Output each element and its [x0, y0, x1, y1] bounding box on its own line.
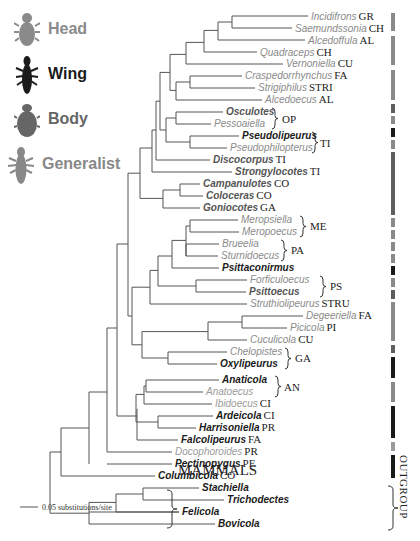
tip-forficuloecus: Forficuloecus: [250, 274, 309, 285]
head-louse-icon: [14, 10, 40, 50]
tip-oxylipeurus: Oxylipeurus: [220, 358, 278, 369]
legend-item-wing: Wing: [6, 53, 116, 98]
legend: Head Wing Body Generalist: [6, 8, 116, 188]
tip-sturnidoecus: Sturnidoecus: [221, 250, 279, 261]
legend-label: Head: [48, 20, 87, 38]
ecomorph-bars: [391, 13, 395, 478]
group-label-ti: TI: [320, 137, 330, 149]
tip-brueelia: Brueelia: [222, 238, 259, 249]
tip-strigiphilus: StrigiphilusSTRI: [258, 82, 333, 93]
tip-falcolipeurus: FalcolipeurusFA: [181, 434, 261, 445]
group-label-op: OP: [282, 113, 296, 125]
legend-label: Wing: [48, 65, 87, 83]
tip-chelopistes: Chelopistes: [230, 346, 282, 357]
outgroup-label: OUTGROUP: [398, 455, 410, 519]
tip-discocorpus: DiscocorpusTI: [213, 154, 286, 165]
legend-label: Body: [48, 110, 88, 128]
tip-docophoroides: DocophoroidesPR: [175, 446, 258, 457]
tip-pessoaiella: Pessoaiella: [214, 118, 265, 129]
tip-cuculicola: CuculicolaCU: [250, 334, 313, 345]
legend-label: Generalist: [42, 155, 120, 173]
tip-harrisoniella: HarrisoniellaPR: [199, 422, 275, 433]
body-louse-icon: [14, 100, 40, 140]
scale-bar-label: 0.05 substitutions/site: [42, 503, 112, 512]
tip-felicola: Felicola: [182, 506, 219, 517]
legend-item-head: Head: [6, 8, 116, 53]
tip-meropsiella: Meropsiella: [241, 214, 292, 225]
legend-item-body: Body: [6, 98, 116, 143]
group-label-an: AN: [284, 381, 300, 393]
group-label-mammals: MAMMALS: [178, 462, 257, 479]
group-label-ga: GA: [295, 352, 311, 364]
tip-ardeicola: ArdeicolaCI: [216, 410, 275, 421]
tip-campanulotes: CampanulotesCO: [203, 178, 289, 189]
tip-meropoecus: Meropoecus: [242, 226, 297, 237]
tip-goniocotes: GoniocotesGA: [203, 202, 276, 213]
tip-psittoecus: Psittoecus: [249, 286, 300, 297]
tip-osculotes: Osculotes: [226, 106, 274, 117]
generalist-louse-icon: [8, 145, 34, 187]
tip-ibidoecus: IbidoecusCI: [215, 398, 271, 409]
group-label-ps: PS: [330, 280, 342, 292]
tip-stachiella: Stachiella: [202, 482, 249, 493]
tip-strongylocotes: StrongylocotesTI: [235, 166, 320, 177]
tip-saemundssonia: SaemundssoniaCH: [295, 23, 384, 34]
tip-pseudophilopterus: Pseudophilopterus: [230, 142, 313, 153]
tip-coloceras: ColocerasCO: [206, 190, 272, 201]
tip-degeeriella: DegeeriellaFA: [306, 310, 372, 321]
tip-craspedorrhynchus: CraspedorrhynchusFA: [245, 70, 348, 81]
legend-item-generalist: Generalist: [6, 143, 116, 188]
tip-incidifrons: IncidifronsGR: [311, 11, 374, 22]
tip-pseudolipeurus: Pseudolipeurus: [242, 130, 317, 141]
tip-alcedoffula: AlcedoffulaAL: [308, 35, 374, 46]
group-label-pa: PA: [291, 244, 304, 256]
tip-anaticola: Anaticola: [222, 374, 267, 385]
tip-picicola: PicicolaPI: [290, 322, 336, 333]
group-label-me: ME: [310, 220, 327, 232]
tip-quadraceps: QuadracepsCH: [260, 47, 332, 58]
tip-psittaconirmus: Psittaconirmus: [222, 262, 294, 273]
wing-louse-icon: [14, 55, 40, 95]
tip-bovicola: Bovicola: [218, 518, 260, 529]
tip-anatoecus: Anatoecus: [206, 386, 253, 397]
tip-trichodectes: Trichodectes: [227, 494, 289, 505]
tip-vernoniella: VernoniellaCU: [286, 58, 353, 69]
tip-struthiolipeurus: StruthiolipeurusSTRU: [250, 298, 350, 309]
tip-alcedoecus: AlcedoecusAL: [265, 94, 333, 105]
